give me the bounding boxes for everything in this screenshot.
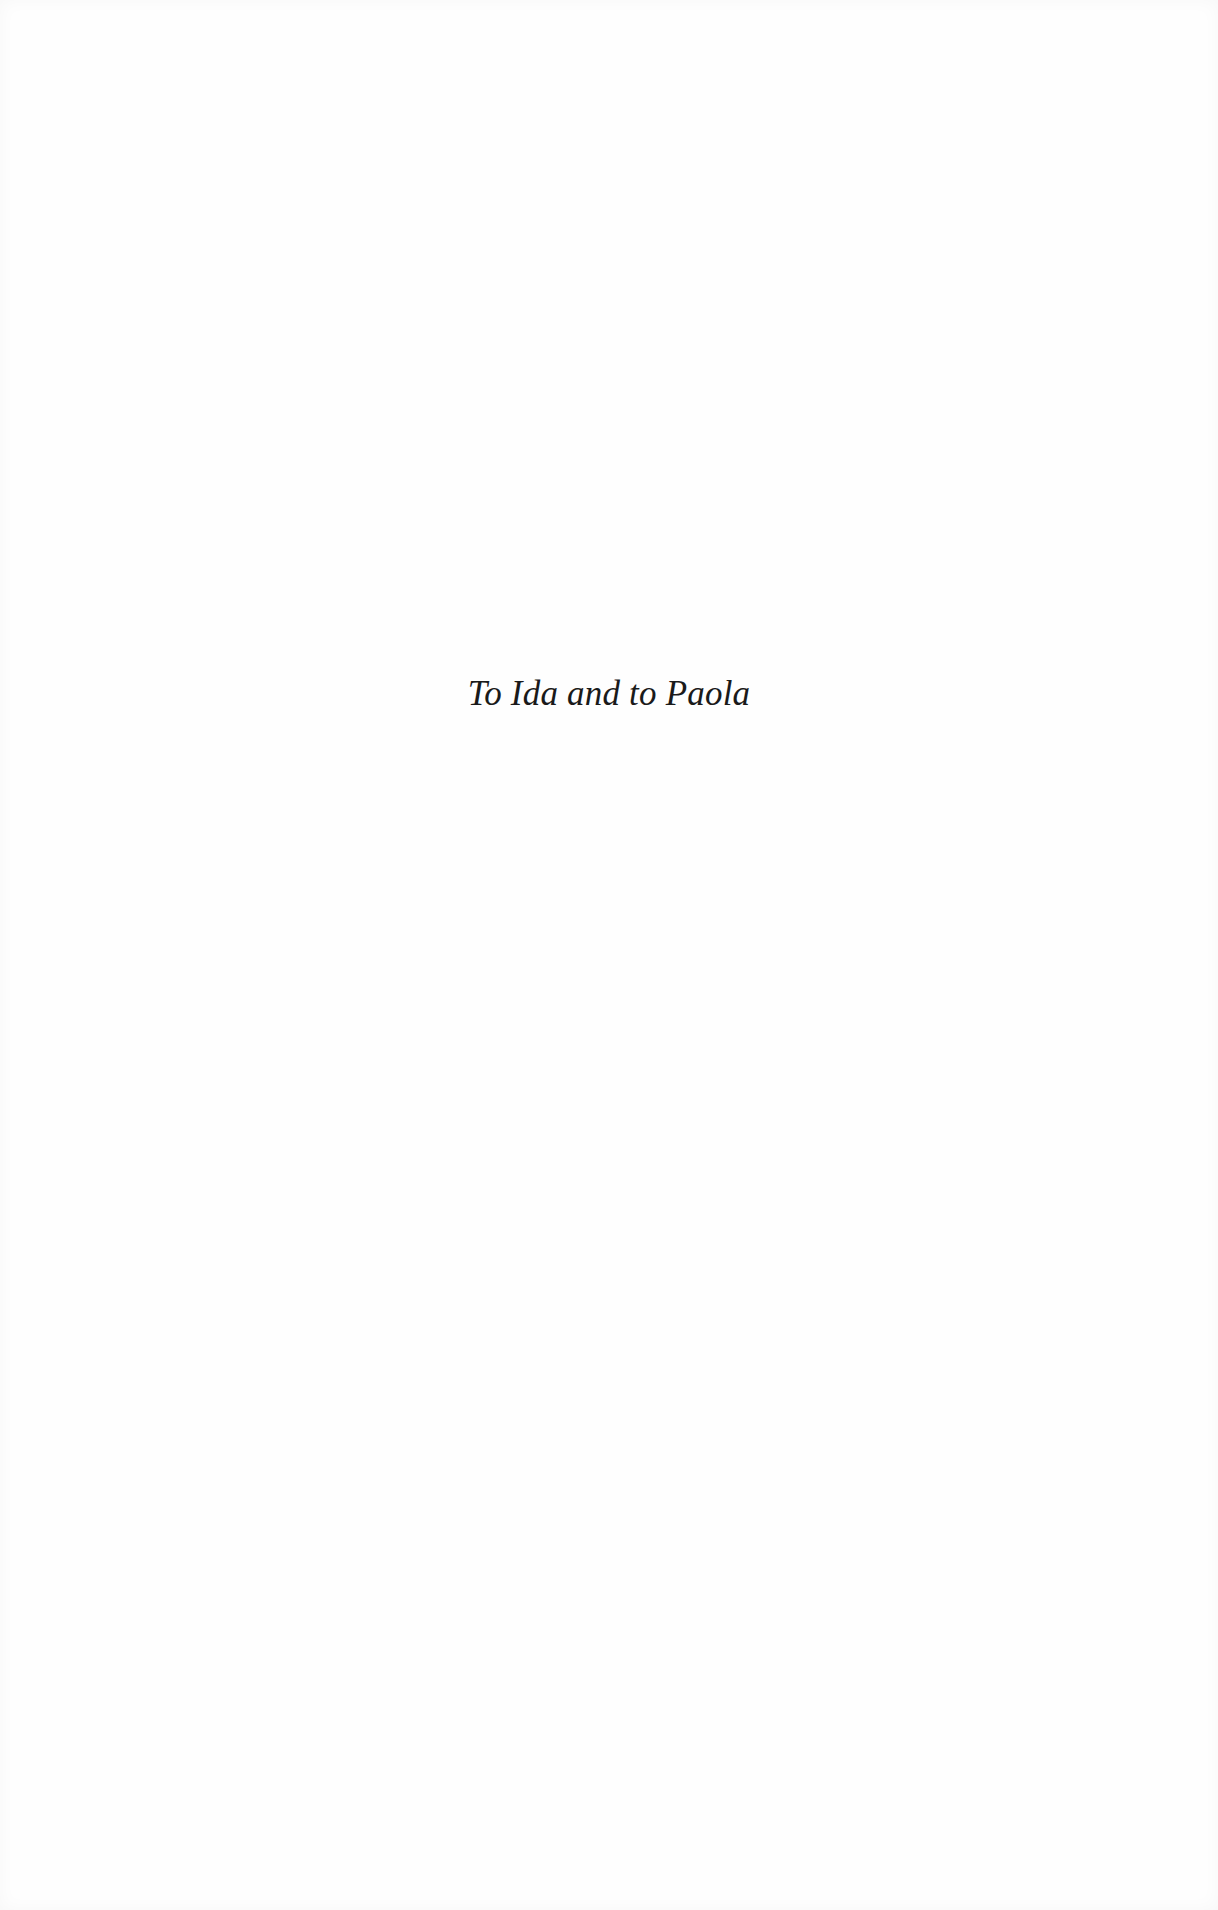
book-page: To Ida and to Paola [0, 0, 1218, 1910]
dedication-text: To Ida and to Paola [0, 670, 1218, 718]
